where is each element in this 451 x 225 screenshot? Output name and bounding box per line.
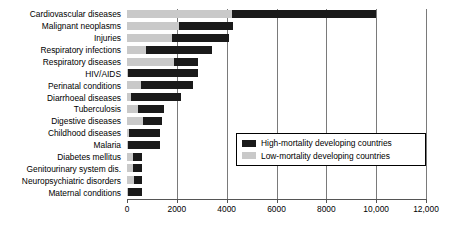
bar-segment-high-mortality (232, 10, 377, 18)
category-label: Maternal conditions (0, 189, 121, 197)
category-label: Respiratory infections (0, 46, 121, 54)
bar-row (127, 104, 426, 116)
category-label: HIV/AIDS (0, 70, 121, 78)
x-tick-label-8000: 8000 (317, 204, 336, 214)
bar-segment-high-mortality (138, 105, 164, 113)
bar-segment-high-mortality (143, 117, 162, 125)
bar-row (127, 80, 426, 92)
bar-segment-high-mortality (141, 81, 193, 89)
category-label: Malaria (0, 141, 121, 149)
bar-row (127, 116, 426, 128)
bar-segment-high-mortality (128, 141, 160, 149)
x-tick-label-4000: 4000 (217, 204, 236, 214)
bar-row (127, 57, 426, 69)
bar-segment-low-mortality (127, 22, 179, 30)
bar-segment-low-mortality (127, 105, 138, 113)
chart-legend: High-mortality developing countries Low-… (236, 133, 426, 166)
bar-segment-low-mortality (127, 176, 134, 184)
category-label: Respiratory diseases (0, 58, 121, 66)
bar-segment-high-mortality (146, 46, 212, 54)
legend-swatch-low-mortality (242, 152, 256, 159)
x-tick-4000 (227, 199, 228, 203)
x-tick-10000 (376, 199, 377, 203)
x-tick-8000 (326, 199, 327, 203)
category-label: Diarrhoeal diseases (0, 94, 121, 102)
x-tick-6000 (277, 199, 278, 203)
bar-segment-low-mortality (127, 10, 232, 18)
x-tick-label-2000: 2000 (168, 204, 187, 214)
x-tick-12000 (426, 199, 427, 203)
category-label: Injuries (0, 34, 121, 42)
legend-item-low-mortality: Low-mortality developing countries (242, 150, 420, 163)
bar-row (127, 9, 426, 21)
plot-area (127, 9, 426, 199)
x-tick-label-6000: 6000 (267, 204, 286, 214)
category-label: Digestive diseases (0, 117, 121, 125)
bar-segment-low-mortality (127, 117, 143, 125)
legend-item-high-mortality: High-mortality developing countries (242, 137, 420, 150)
category-label: Tuberculosis (0, 105, 121, 113)
bar-segment-high-mortality (128, 69, 198, 77)
category-label: Neuropsychiatric disorders (0, 177, 121, 185)
bar-segment-low-mortality (127, 58, 174, 66)
category-label: Childhood diseases (0, 129, 121, 137)
bar-row (127, 33, 426, 45)
bar-row (127, 92, 426, 104)
category-label: Genitourinary system dis. (0, 165, 121, 173)
bar-segment-high-mortality (172, 34, 229, 42)
legend-label-low-mortality: Low-mortality developing countries (261, 152, 390, 160)
gridline-12000 (426, 9, 427, 199)
x-tick-label-0: 0 (125, 204, 130, 214)
bar-segment-low-mortality (127, 34, 172, 42)
x-tick-label-10000: 10,000 (363, 204, 389, 214)
bar-row (127, 68, 426, 80)
bar-segment-high-mortality (133, 153, 142, 161)
bar-segment-high-mortality (134, 176, 143, 184)
category-label: Perinatal conditions (0, 82, 121, 90)
bar-segment-high-mortality (174, 58, 198, 66)
x-tick-2000 (177, 199, 178, 203)
category-label: Cardiovascular diseases (0, 10, 121, 18)
category-label: Diabetes mellitus (0, 153, 121, 161)
x-tick-0 (127, 199, 128, 203)
bar-row (127, 175, 426, 187)
category-axis-labels: Cardiovascular diseasesMalignant neoplas… (0, 9, 124, 199)
bar-row (127, 45, 426, 57)
bar-segment-high-mortality (129, 129, 159, 137)
bar-segment-high-mortality (179, 22, 233, 30)
bar-segment-low-mortality (127, 81, 141, 89)
bar-segment-low-mortality (127, 46, 146, 54)
bar-segment-high-mortality (133, 164, 142, 172)
legend-swatch-high-mortality (242, 140, 256, 147)
x-tick-label-12000: 12,000 (413, 204, 439, 214)
legend-label-high-mortality: High-mortality developing countries (261, 139, 392, 147)
category-label: Malignant neoplasms (0, 22, 121, 30)
bar-segment-high-mortality (128, 188, 142, 196)
bar-segment-high-mortality (131, 93, 181, 101)
bar-chart: Cardiovascular diseasesMalignant neoplas… (0, 0, 451, 225)
bar-row (127, 21, 426, 33)
bar-row (127, 187, 426, 199)
